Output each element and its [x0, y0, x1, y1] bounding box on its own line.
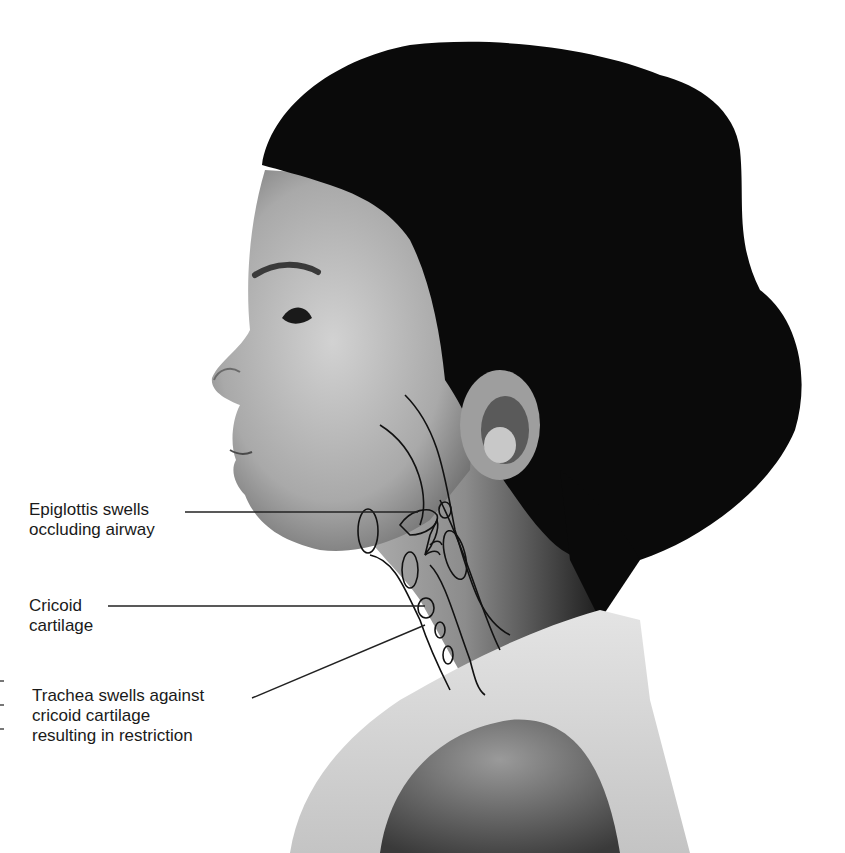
label-epiglottis: Epiglottis swells occluding airway	[29, 500, 155, 540]
page-edge-marks	[0, 680, 6, 750]
label-trachea: Trachea swells against cricoid cartilage…	[32, 686, 204, 746]
label-cricoid: Cricoid cartilage	[29, 596, 93, 636]
leader-trachea	[252, 625, 425, 698]
